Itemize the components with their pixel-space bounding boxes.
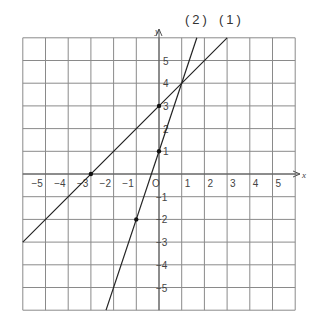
x-tick-label: −5 bbox=[32, 178, 44, 189]
x-tick-label: 2 bbox=[207, 178, 213, 189]
data-point bbox=[157, 104, 161, 108]
x-tick-label: 4 bbox=[253, 178, 259, 189]
y-tick-label: −2 bbox=[156, 214, 168, 225]
plot-line-1 bbox=[23, 38, 227, 242]
y-tick-label: −5 bbox=[156, 283, 168, 294]
x-axis-label: x bbox=[301, 170, 306, 180]
x-tick-label: −1 bbox=[122, 178, 134, 189]
data-point bbox=[134, 217, 138, 221]
line-label-2: (2) bbox=[185, 12, 210, 27]
data-point bbox=[157, 149, 161, 153]
x-tick-label: 1 bbox=[185, 178, 191, 189]
y-tick-label: 4 bbox=[163, 78, 169, 89]
y-axis-label: y bbox=[154, 26, 159, 36]
x-tick-label: −2 bbox=[100, 178, 112, 189]
x-tick-label: −3 bbox=[77, 178, 89, 189]
y-tick-label: 5 bbox=[163, 56, 169, 67]
x-tick-label: −4 bbox=[54, 178, 66, 189]
coordinate-plane: −5−4−3−2−1O1234554321−1−2−3−4−5 (2) (1) … bbox=[0, 0, 326, 330]
y-tick-label: −4 bbox=[156, 260, 168, 271]
y-tick-label: 3 bbox=[163, 101, 169, 112]
x-tick-label: 5 bbox=[276, 178, 282, 189]
line-label-1: (1) bbox=[219, 12, 244, 27]
x-tick-label: O bbox=[152, 178, 160, 189]
y-tick-label: 1 bbox=[163, 146, 169, 157]
marked-points bbox=[89, 104, 161, 222]
data-point bbox=[89, 172, 93, 176]
y-tick-label: −3 bbox=[156, 237, 168, 248]
x-tick-label: 3 bbox=[230, 178, 236, 189]
y-tick-label: −1 bbox=[156, 192, 168, 203]
